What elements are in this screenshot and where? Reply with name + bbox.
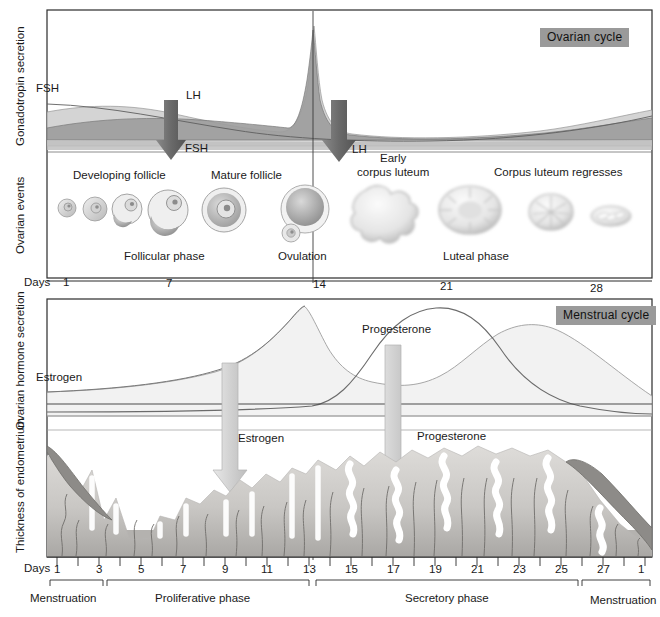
early-corpus-luteum-label-line2: corpus luteum <box>357 166 429 178</box>
bottom-day-tick-27: 27 <box>597 563 610 575</box>
follicular-phase-label: Follicular phase <box>124 250 205 262</box>
bottom-day-tick-15: 15 <box>345 563 358 575</box>
fsh-curve-label: FSH <box>36 82 59 94</box>
mature-corpus-luteum <box>439 186 501 234</box>
menstruation-left-label: Menstruation <box>30 592 96 604</box>
bottom-day-tick-21: 21 <box>471 563 484 575</box>
developing-follicle-label: Developing follicle <box>73 169 166 181</box>
bottom-day-tick-19: 19 <box>429 563 442 575</box>
bottom-day-tick-25: 25 <box>555 563 568 575</box>
ovarian-cycle-badge: Ovarian cycle <box>540 28 629 47</box>
proliferative-phase-label: Proliferative phase <box>155 592 250 604</box>
axis-label-ovarian-events: Ovarian events <box>14 177 26 254</box>
bottom-day-tick-17: 17 <box>387 563 400 575</box>
regressing-corpus-luteum <box>529 194 573 230</box>
top-day-tick-28: 28 <box>590 282 603 294</box>
early-corpus-luteum-label-line1: Early <box>380 152 406 164</box>
lh-arrow-label: LH <box>352 143 367 155</box>
fsh-arrow-label: FSH <box>185 142 208 154</box>
axis-label-thickness-of-endometrium: Thickness of endometrium <box>14 418 26 553</box>
secretory-phase-label: Secretory phase <box>405 592 489 604</box>
figure-canvas: Gonadotropin secretion Ovarian events Ov… <box>0 0 660 617</box>
estrogen-curve-label: Estrogen <box>36 371 82 383</box>
menstruation-right-label: Menstruation <box>590 594 656 606</box>
ovulation-label: Ovulation <box>278 250 327 262</box>
bottom-days-label: Days <box>24 562 50 574</box>
bottom-day-tick-1: 1 <box>54 563 60 575</box>
luteal-phase-label: Luteal phase <box>443 250 509 262</box>
progesterone-arrow-label: Progesterone <box>417 430 486 442</box>
bottom-day-tick-23: 23 <box>513 563 526 575</box>
progesterone-curve-label: Progesterone <box>362 323 431 335</box>
bottom-day-tick-3: 3 <box>96 563 102 575</box>
axis-label-gonadotropin-secretion: Gonadotropin secretion <box>14 26 26 146</box>
mature-follicle-label: Mature follicle <box>211 169 282 181</box>
lh-curve-label: LH <box>186 89 201 101</box>
top-day-tick-21: 21 <box>440 280 453 292</box>
estrogen-arrow-label: Estrogen <box>238 432 284 444</box>
bottom-day-tick-13: 13 <box>303 563 316 575</box>
axis-label-ovarian-hormone-secretion: Ovarian hormone secretion <box>14 291 26 430</box>
menstrual-cycle-badge: Menstrual cycle <box>556 306 656 325</box>
top-day-tick-7: 7 <box>166 277 172 289</box>
corpus-luteum-regresses-label: Corpus luteum regresses <box>494 166 622 178</box>
bottom-day-tick-5: 5 <box>138 563 144 575</box>
follicle-stage-2 <box>83 197 107 221</box>
top-days-label: Days <box>24 276 50 288</box>
corpus-albicans <box>591 206 631 226</box>
bottom-day-tick-next-1: 1 <box>638 563 644 575</box>
top-day-tick-1: 1 <box>63 276 69 288</box>
bottom-day-tick-7: 7 <box>180 563 186 575</box>
phase-brackets <box>50 580 650 586</box>
bottom-day-tick-11: 11 <box>261 563 273 575</box>
mature-follicle <box>202 188 246 232</box>
follicle-stage-1 <box>58 199 76 217</box>
bottom-day-tick-9: 9 <box>222 563 228 575</box>
top-day-tick-14: 14 <box>313 278 326 290</box>
